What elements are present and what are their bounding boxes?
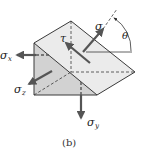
sigma-z-subscript: z (21, 89, 26, 97)
stress-wedge-diagram: σ θ τ σ x σ z σ y (b) (0, 0, 146, 152)
sigma-x-subscript: x (8, 55, 12, 63)
sigma-x-label: σ (0, 49, 8, 62)
tau-label: τ (60, 32, 67, 45)
sigma-y-label: σ (87, 116, 95, 129)
sigma-z-label: σ (14, 83, 22, 96)
figure-caption: (b) (62, 137, 76, 148)
theta-label: θ (122, 30, 128, 41)
sigma-y-subscript: y (94, 122, 100, 130)
sigma-label: σ (95, 20, 103, 33)
